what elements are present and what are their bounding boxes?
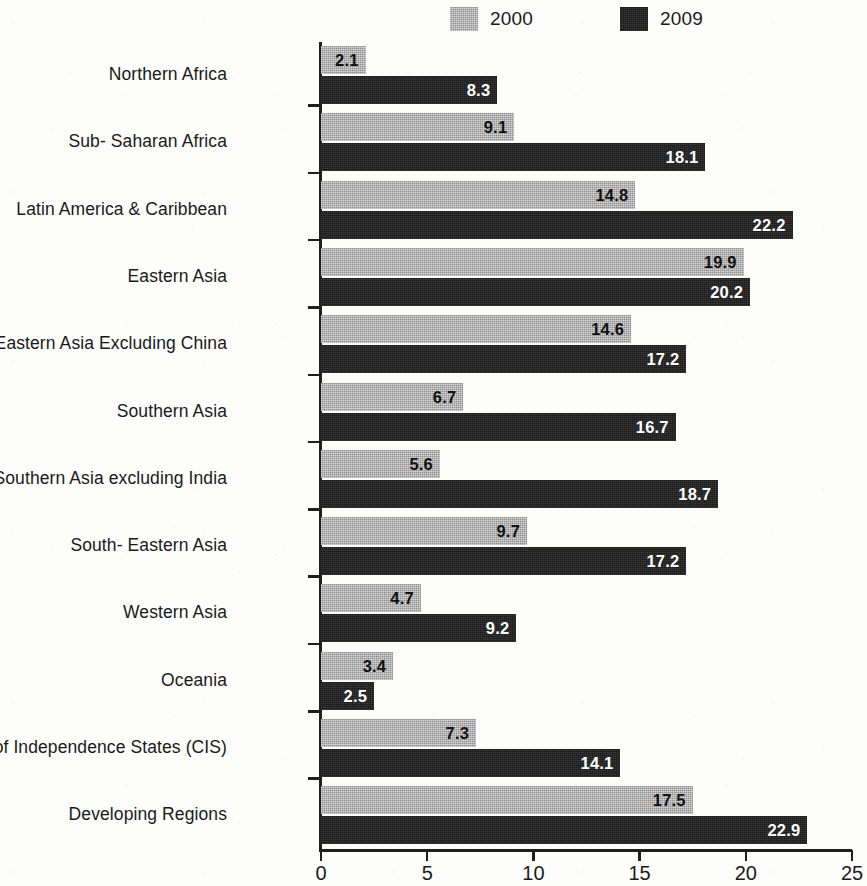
x-axis-tick <box>638 850 641 861</box>
y-axis-tick <box>308 441 320 444</box>
bar-2000: 6.7 <box>321 383 463 411</box>
y-axis-tick <box>308 104 320 107</box>
bar-value-label: 9.7 <box>496 517 520 545</box>
bar-2009: 9.2 <box>321 614 516 642</box>
category-label: South- Eastern Asia <box>70 535 227 556</box>
bar-2009: 2.5 <box>321 682 374 710</box>
category-label: Commonwealth of Independence States (CIS… <box>0 737 227 758</box>
x-axis-line <box>319 849 852 852</box>
bar-2000: 14.6 <box>321 315 631 343</box>
bar-2000: 19.9 <box>321 248 744 276</box>
y-axis-tick <box>308 172 320 175</box>
bar-value-label: 22.2 <box>753 211 786 239</box>
x-axis-tick-label: 15 <box>610 861 670 885</box>
category-label: Oceania <box>161 670 227 691</box>
bar-2009: 17.2 <box>321 547 686 575</box>
bar-value-label: 4.7 <box>390 584 414 612</box>
bar-2000: 2.1 <box>321 46 366 74</box>
bar-2000: 14.8 <box>321 181 635 209</box>
category-label: Sub- Saharan Africa <box>68 131 227 152</box>
bar-value-label: 18.7 <box>678 480 711 508</box>
bar-2000: 7.3 <box>321 719 476 747</box>
bar-value-label: 9.1 <box>484 113 508 141</box>
bar-2000: 5.6 <box>321 450 440 478</box>
x-axis-tick <box>320 850 323 861</box>
bar-value-label: 7.3 <box>446 719 470 747</box>
category-label: Southern Asia excluding India <box>0 468 227 489</box>
category-label: Eastern Asia Excluding China <box>0 333 227 354</box>
bar-2009: 8.3 <box>321 76 497 104</box>
bar-value-label: 5.6 <box>409 450 433 478</box>
y-axis-tick <box>308 710 320 713</box>
x-axis-tick-label: 0 <box>291 861 351 885</box>
bar-value-label: 22.9 <box>767 816 800 844</box>
y-axis-tick <box>308 575 320 578</box>
y-axis-tick <box>308 508 320 511</box>
category-label: Eastern Asia <box>128 266 227 287</box>
bar-2000: 17.5 <box>321 786 693 814</box>
bar-value-label: 20.2 <box>710 278 743 306</box>
x-axis-tick <box>851 850 854 861</box>
x-axis-tick-label: 20 <box>716 861 776 885</box>
y-axis-tick <box>308 643 320 646</box>
bar-value-label: 8.3 <box>467 76 491 104</box>
bar-value-label: 9.2 <box>486 614 510 642</box>
bar-value-label: 17.2 <box>646 345 679 373</box>
x-axis-tick-label: 5 <box>397 861 457 885</box>
x-axis-tick-label: 10 <box>503 861 563 885</box>
bar-2009: 18.7 <box>321 480 718 508</box>
bar-value-label: 16.7 <box>636 413 669 441</box>
x-axis-tick <box>532 850 535 861</box>
bar-2000: 3.4 <box>321 652 393 680</box>
bar-value-label: 14.6 <box>591 315 624 343</box>
category-label: Western Asia <box>123 602 227 623</box>
bar-2000: 9.1 <box>321 113 514 141</box>
bar-value-label: 17.5 <box>653 786 686 814</box>
y-axis-tick <box>308 374 320 377</box>
bar-2009: 17.2 <box>321 345 686 373</box>
x-axis-tick <box>745 850 748 861</box>
category-label: Northern Africa <box>109 64 227 85</box>
bar-2009: 22.9 <box>321 816 807 844</box>
bar-value-label: 19.9 <box>704 248 737 276</box>
bar-value-label: 2.1 <box>335 46 359 74</box>
bar-value-label: 18.1 <box>666 143 699 171</box>
bar-value-label: 6.7 <box>433 383 457 411</box>
category-label: Developing Regions <box>69 804 227 825</box>
bar-value-label: 14.1 <box>581 749 614 777</box>
bar-2000: 4.7 <box>321 584 421 612</box>
bar-2009: 18.1 <box>321 143 705 171</box>
y-axis-tick <box>308 306 320 309</box>
x-axis-tick-label: 25 <box>822 861 867 885</box>
bar-value-label: 3.4 <box>363 652 387 680</box>
bar-value-label: 17.2 <box>646 547 679 575</box>
bar-2009: 20.2 <box>321 278 750 306</box>
y-axis-tick <box>308 777 320 780</box>
bar-2009: 14.1 <box>321 749 620 777</box>
x-axis-tick <box>426 850 429 861</box>
bar-value-label: 2.5 <box>344 682 368 710</box>
bar-2000: 9.7 <box>321 517 527 545</box>
y-axis-tick <box>308 239 320 242</box>
bar-2009: 22.2 <box>321 211 793 239</box>
bar-value-label: 14.8 <box>595 181 628 209</box>
category-label: Southern Asia <box>117 401 227 422</box>
category-label: Latin America & Caribbean <box>16 199 227 220</box>
bar-2009: 16.7 <box>321 413 676 441</box>
